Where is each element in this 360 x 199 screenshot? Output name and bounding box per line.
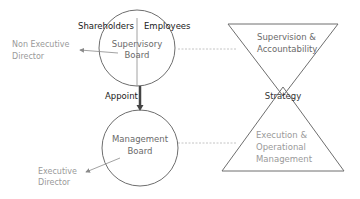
supervision-label-line2: Accountability	[257, 44, 317, 54]
non-executive-label-line2: Director	[12, 52, 45, 61]
management-board-subtitle: Board	[128, 146, 153, 156]
strategy-label: Strategy	[265, 91, 301, 101]
execution-label-line2: Operational	[256, 142, 306, 152]
appoint-label: Appoint	[105, 91, 139, 101]
non-executive-label-line1: Non Executive	[12, 40, 70, 49]
executive-label-line1: Executive	[38, 167, 77, 176]
management-board-title: Management	[112, 134, 169, 144]
executive-label-line2: Director	[38, 178, 71, 187]
shareholders-label: Shareholders	[78, 21, 135, 31]
supervisory-board-subtitle: Board	[125, 50, 150, 60]
supervisory-board-title: Supervisory	[112, 39, 162, 49]
employees-label: Employees	[144, 21, 191, 31]
execution-label-line1: Execution &	[256, 130, 307, 140]
governance-diagram: Shareholders Employees Supervisory Board…	[0, 0, 360, 199]
execution-label-line3: Management	[256, 154, 313, 164]
supervision-label-line1: Supervision &	[257, 32, 316, 42]
executive-arrow	[86, 158, 120, 172]
